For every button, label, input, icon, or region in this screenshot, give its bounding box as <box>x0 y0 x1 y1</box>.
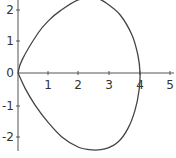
x-tick-label-3: 3 <box>105 78 113 92</box>
y-tick-label-m2: -2 <box>2 130 14 144</box>
y-tick-label-0: 0 <box>6 66 14 80</box>
x-tick-labels: 1 2 3 4 5 <box>44 78 174 92</box>
y-tick-labels: 2 1 0 -1 -2 <box>2 3 14 144</box>
y-tick-label-m1: -1 <box>2 99 14 113</box>
x-tick-label-2: 2 <box>74 78 82 92</box>
x-tick-label-5: 5 <box>166 78 174 92</box>
plot-area: 1 2 3 4 5 2 1 0 -1 -2 <box>0 0 176 158</box>
y-tick-label-2: 2 <box>6 3 14 17</box>
closed-curve <box>18 0 140 150</box>
y-tick-label-1: 1 <box>6 34 14 48</box>
x-tick-label-1: 1 <box>44 78 52 92</box>
